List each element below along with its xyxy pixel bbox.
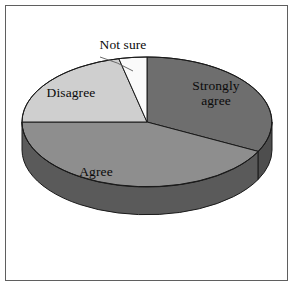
pie-top-faces	[22, 57, 272, 187]
figure: Not sure Strongly agree Disagree Agree	[0, 0, 295, 288]
pie-label-disagree: Disagree	[40, 86, 102, 101]
pie-label-strongly-agree: Strongly agree	[186, 79, 246, 108]
pie-label-agree: Agree	[72, 165, 120, 180]
pie-label-not-sure: Not sure	[92, 38, 154, 53]
